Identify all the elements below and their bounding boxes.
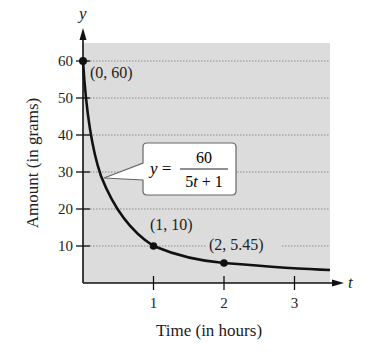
y-tick-label: 50 [58, 90, 73, 106]
x-tick-labels: 1 2 3 [150, 295, 299, 311]
equation-numerator: 60 [196, 149, 212, 166]
data-point-2-5.45 [220, 259, 228, 267]
x-tick-label: 3 [291, 295, 299, 311]
point-label-2-5.45: (2, 5.45) [209, 236, 264, 254]
y-axis-arrow-icon [80, 28, 87, 40]
equation-denominator: 5t + 1 [185, 173, 222, 190]
data-point-0-60 [79, 57, 87, 65]
decay-chart: y t 60 50 40 30 20 10 1 2 3 Time (in hou… [0, 0, 371, 362]
y-tick-label: 10 [58, 238, 73, 254]
y-tick-label: 60 [58, 53, 73, 69]
y-axis-var: y [77, 4, 87, 23]
x-axis-title: Time (in hours) [156, 321, 262, 340]
y-tick-label: 30 [58, 164, 73, 180]
x-tick-label: 2 [220, 295, 228, 311]
y-axis-title: Amount (in grams) [23, 98, 42, 228]
y-tick-labels: 60 50 40 30 20 10 [58, 53, 73, 254]
x-axis-arrow-icon [332, 280, 344, 287]
y-tick-label: 20 [58, 201, 73, 217]
data-point-1-10 [150, 242, 158, 250]
point-label-1-10: (1, 10) [150, 216, 193, 234]
x-tick-label: 1 [150, 295, 158, 311]
x-axis-var: t [348, 273, 354, 292]
y-tick-label: 40 [58, 127, 73, 143]
equation-lhs: y = [148, 159, 171, 178]
point-label-0-60: (0, 60) [90, 64, 133, 82]
